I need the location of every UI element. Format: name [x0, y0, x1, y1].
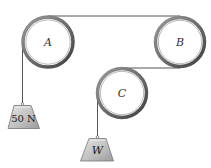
- pulley-diagram: A B C 50 N W: [0, 0, 211, 168]
- pulley-c: C: [98, 69, 147, 118]
- pulley-b-label: B: [175, 36, 184, 49]
- weight-w: W: [81, 136, 114, 161]
- weight-50n: 50 N: [8, 103, 40, 129]
- pulley-c-label: C: [118, 87, 127, 100]
- pulley-a-label: A: [43, 36, 52, 49]
- pulley-a: A: [23, 17, 73, 67]
- weight-50n-label: 50 N: [11, 113, 36, 124]
- weight-w-label: W: [92, 144, 105, 157]
- pulley-b: B: [156, 18, 205, 67]
